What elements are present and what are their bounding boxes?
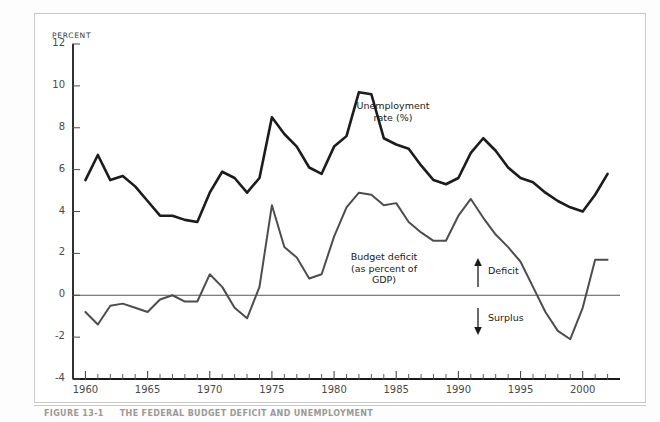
budget-deficit-series-label-line3: GDP) <box>338 274 430 286</box>
figure-caption: FIGURE 13-1THE FEDERAL BUDGET DEFICIT AN… <box>44 409 644 422</box>
chart-plot <box>0 0 660 422</box>
x-axis-tick-label: 1985 <box>376 384 416 395</box>
x-axis-tick-label: 1980 <box>314 384 354 395</box>
x-axis-tick-label: 1995 <box>501 384 541 395</box>
figure-caption-number: FIGURE 13-1 <box>44 409 104 418</box>
deficit-direction-label: Deficit <box>488 265 519 276</box>
unemployment-series-label: Unemployment rate (%) <box>345 100 441 123</box>
x-axis-tick-label: 1990 <box>438 384 478 395</box>
figure-caption-title: THE FEDERAL BUDGET DEFICIT AND UNEMPLOYM… <box>120 409 373 418</box>
y-axis-tick-label: 6 <box>39 163 65 174</box>
unemployment-series-label-line1: Unemployment <box>345 100 441 112</box>
budget-deficit-series-label-line1: Budget deficit <box>338 251 430 263</box>
surplus-arrow-icon <box>474 308 482 335</box>
budget-deficit-series-label: Budget deficit (as percent of GDP) <box>338 251 430 286</box>
deficit-arrow-icon <box>474 258 482 287</box>
y-axis-tick-label: 8 <box>39 121 65 132</box>
y-axis-tick-label: 2 <box>39 246 65 257</box>
y-axis-tick-label: 4 <box>39 205 65 216</box>
y-axis-tick-label: -2 <box>39 330 65 341</box>
y-axis-tick-label: -4 <box>39 372 65 383</box>
x-axis-tick-label: 1960 <box>65 384 105 395</box>
caption-divider <box>34 405 646 406</box>
x-axis-tick-label: 2000 <box>563 384 603 395</box>
y-axis-tick-label: 0 <box>39 288 65 299</box>
surplus-direction-label: Surplus <box>488 312 524 323</box>
figure-container: PERCENT 121086420-2-4 196019651970197519… <box>0 0 660 422</box>
unemployment-series-label-line2: rate (%) <box>345 112 441 124</box>
x-axis-tick-label: 1970 <box>190 384 230 395</box>
x-axis-tick-label: 1975 <box>252 384 292 395</box>
x-axis-tick-label: 1965 <box>128 384 168 395</box>
y-axis-tick-label: 12 <box>39 37 65 48</box>
budget-deficit-series-label-line2: (as percent of <box>338 263 430 275</box>
y-axis-tick-label: 10 <box>39 79 65 90</box>
